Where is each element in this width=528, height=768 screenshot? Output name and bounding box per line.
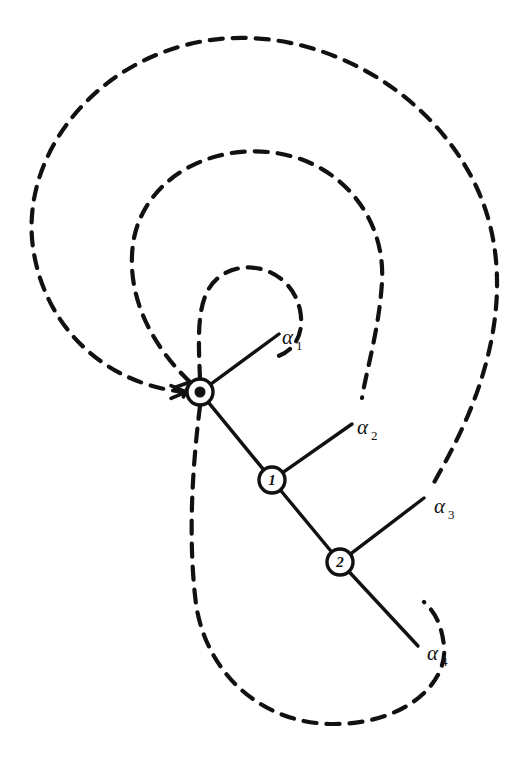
alpha-subscript: 4	[441, 654, 448, 669]
diagram-canvas: 12 α1α2α3α4	[0, 0, 528, 768]
alpha-glyph: α	[434, 494, 446, 518]
node-0-inner-dot	[195, 387, 206, 398]
alpha-glyph: α	[357, 415, 369, 439]
alpha-subscript: 3	[448, 507, 455, 522]
alpha-glyph: α	[427, 641, 439, 665]
figure-root: 12 α1α2α3α4	[0, 0, 528, 768]
alpha-subscript: 1	[296, 338, 303, 353]
node-1-label: 1	[268, 472, 276, 488]
figure-background	[0, 0, 528, 768]
alpha-glyph: α	[282, 325, 294, 349]
node-2[interactable]: 2	[327, 549, 353, 575]
node-2-label: 2	[335, 554, 344, 570]
node-0[interactable]	[187, 379, 213, 405]
node-1[interactable]: 1	[259, 467, 285, 493]
alpha-subscript: 2	[371, 428, 378, 443]
